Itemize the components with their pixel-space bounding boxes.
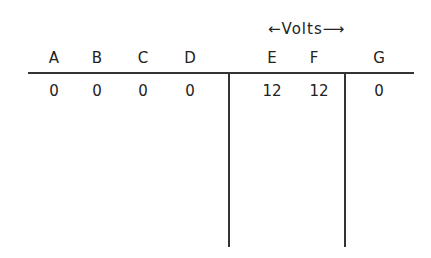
column-header-f: F	[310, 51, 319, 66]
right-arrow-icon: ⟶	[323, 20, 346, 38]
column-header-e: E	[267, 51, 276, 66]
value-e: 12	[262, 84, 281, 99]
value-b: 0	[92, 84, 102, 99]
volts-label-group: ←Volts⟶	[268, 22, 345, 37]
left-arrow-icon: ←	[268, 20, 282, 38]
column-header-g: G	[373, 51, 385, 66]
header-divider	[28, 72, 414, 74]
column-header-a: A	[49, 51, 59, 66]
value-f: 12	[309, 84, 328, 99]
column-divider-1	[228, 72, 230, 247]
value-a: 0	[49, 84, 59, 99]
column-header-d: D	[184, 51, 196, 66]
column-header-b: B	[92, 51, 102, 66]
value-g: 0	[374, 84, 384, 99]
value-c: 0	[138, 84, 148, 99]
column-divider-2	[344, 72, 346, 247]
value-d: 0	[185, 84, 195, 99]
volts-label: Volts	[282, 20, 323, 38]
column-header-c: C	[138, 51, 148, 66]
